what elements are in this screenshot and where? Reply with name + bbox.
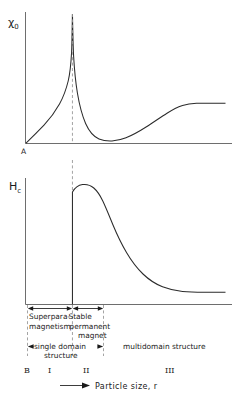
region-label-iii: III bbox=[165, 366, 174, 375]
x-axis-title-group: Particle size, r bbox=[60, 382, 158, 391]
single-domain-bracket: single domain structure bbox=[28, 342, 103, 360]
region-label-i: I bbox=[48, 366, 51, 375]
region-1-arrow-left bbox=[28, 306, 33, 310]
top-panel: χ0 A bbox=[8, 12, 232, 156]
bottom-panel: Hc bbox=[9, 178, 232, 305]
stable-line2: permanent bbox=[70, 322, 111, 331]
single-domain-line1: single domain bbox=[34, 342, 86, 351]
region-annotation-text: Superpara- Stable magnetism permanent ma… bbox=[29, 312, 110, 340]
region-1-arrow-right bbox=[67, 306, 72, 310]
region-label-ii: II bbox=[83, 366, 89, 375]
region-2-arrow-left bbox=[73, 306, 78, 310]
susceptibility-curve bbox=[26, 14, 226, 143]
region-2-arrow-right bbox=[98, 306, 103, 310]
stable-line3: magnet bbox=[78, 331, 107, 340]
superpara-line2: magnetism bbox=[29, 322, 71, 331]
origin-label-a: A bbox=[21, 147, 27, 156]
stable-line1: Stable bbox=[69, 312, 93, 321]
x-axis-arrow-head bbox=[82, 383, 90, 389]
coercivity-curve bbox=[72, 184, 225, 292]
figure-container: χ0 A Hc Superpara- Stable magnetism perm… bbox=[0, 0, 241, 396]
region-brackets-upper bbox=[28, 306, 103, 310]
multidomain-label: multidomain structure bbox=[123, 342, 206, 351]
region-letters: B I II III bbox=[24, 366, 174, 375]
single-domain-arrow-right bbox=[97, 344, 103, 349]
superpara-line1: Superpara- bbox=[29, 312, 70, 321]
particle-size-magnetics-figure: χ0 A Hc Superpara- Stable magnetism perm… bbox=[0, 0, 241, 396]
single-domain-arrow-left bbox=[28, 344, 34, 349]
single-domain-line2: structure bbox=[44, 351, 78, 360]
x-axis-label: Particle size, r bbox=[95, 382, 158, 391]
top-y-axis-label: χ0 bbox=[8, 16, 19, 31]
bottom-y-axis-label: Hc bbox=[9, 180, 21, 195]
region-label-b: B bbox=[24, 366, 30, 375]
